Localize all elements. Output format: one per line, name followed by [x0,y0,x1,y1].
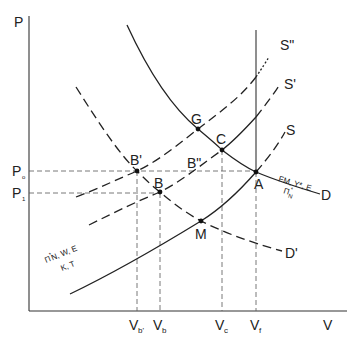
label-c: C [216,131,226,147]
x-axis-label: V [323,317,333,333]
label-s: S [286,122,295,138]
supply-annotation-bottom: K, T [59,259,76,273]
y-tick-p0: P o [12,163,26,180]
point-b-prime [135,169,140,174]
demand-annotation-top: FM, Y*, E [277,174,312,193]
svg-text:P: P [12,163,21,179]
label-s-double-prime: S" [280,37,294,53]
label-s-prime: S' [284,76,296,92]
x-tick-vb-prime: V b' [129,317,144,335]
y-axis-label: P [14,14,23,30]
x-tick-vf: V f [250,317,262,335]
svg-text:o: o [22,174,26,180]
svg-text:f: f [259,326,262,335]
supply-annotation-rest: N, W, E [50,244,79,263]
svg-text:b: b [162,326,167,335]
label-d: D [321,187,331,203]
x-tick-vc: V c [215,317,228,335]
demand-annotation: FM, Y*, E [277,174,312,193]
demand-annotation-sub: N [288,193,294,200]
label-m: M [195,226,207,242]
point-c [220,148,225,153]
supply-demand-diagram: P V A B B' B" C G M S" S' S D D' FM, Y*,… [0,0,362,340]
label-b-double-prime: B" [187,155,201,171]
svg-text:b': b' [138,326,144,335]
label-d-prime: D' [285,245,298,261]
supply-curve-s-double-prime-upper [256,57,269,77]
point-a [254,170,259,175]
y-tick-p1: P 1 [12,185,26,202]
svg-text:1: 1 [22,196,26,202]
label-a: A [254,176,264,192]
supply-curve-s-upper [256,132,285,172]
svg-text:c: c [224,326,228,335]
label-b: B [154,175,163,191]
label-g: G [191,111,202,127]
supply-curve-s-prime-mid [222,117,256,150]
svg-text:P: P [12,185,21,201]
label-b-prime: B' [130,152,142,168]
point-m [199,219,204,224]
supply-curve-s-prime-upper [256,84,280,117]
point-g [196,127,201,132]
supply-curve-s-double-prime [76,77,256,197]
supply-annotation-kt: K, T [59,259,76,273]
demand-annotation-bottom: Π * N [282,184,296,199]
x-tick-vb: V b [153,317,167,335]
